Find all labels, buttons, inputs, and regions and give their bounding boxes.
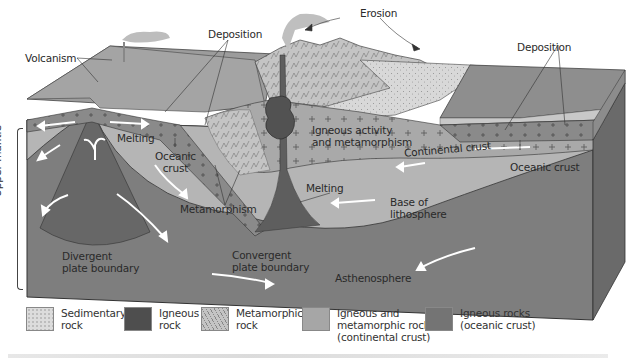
legend-text: Igneous rock	[159, 307, 199, 331]
label-volcanism: Volcanism	[25, 52, 76, 64]
label-upper-mantle: Upper mantle	[0, 125, 3, 197]
legend-line: metamorphic rock	[337, 319, 430, 331]
continental-crust-swatch	[302, 307, 330, 331]
sedimentary-swatch	[26, 307, 54, 331]
legend-item-metamorphic: Metamorphic rock	[201, 307, 303, 331]
label-erosion: Erosion	[360, 7, 397, 19]
legend-line: Metamorphic	[236, 307, 303, 319]
label-line: Base of	[390, 196, 447, 208]
label-oceanic-crust-left: Oceanic crust	[155, 150, 196, 174]
legend-text: Igneous and metamorphic rock (continenta…	[337, 307, 430, 343]
metamorphic-swatch	[201, 307, 229, 331]
label-melting-left: Melting	[117, 132, 154, 144]
label-oceanic-crust-right: Oceanic crust	[510, 161, 579, 173]
legend-line: Igneous	[159, 307, 199, 319]
label-line: and metamorphism	[312, 136, 412, 148]
legend-item-sedimentary: Sedimentary rock	[26, 307, 126, 331]
label-convergent-boundary: Convergent plate boundary	[232, 249, 309, 273]
caption-illegible	[8, 354, 608, 358]
smoke-left	[122, 32, 170, 43]
label-line: plate boundary	[232, 261, 309, 273]
label-line: plate boundary	[62, 262, 139, 274]
legend-line: Igneous and	[337, 307, 430, 319]
legend-text: Metamorphic rock	[236, 307, 303, 331]
legend-text: Igneous rocks (oceanic crust)	[460, 307, 535, 331]
legend-line: Sedimentary	[61, 307, 126, 319]
legend-item-igneous-metamorphic: Igneous and metamorphic rock (continenta…	[302, 307, 430, 343]
label-metamorphism: Metamorphism	[180, 203, 257, 215]
label-igneous-activity: Igneous activity and metamorphism	[312, 124, 412, 148]
legend-text: Sedimentary rock	[61, 307, 126, 331]
legend: Sedimentary rock Igneous rock Metamorphi…	[0, 307, 635, 347]
legend-line: (oceanic crust)	[460, 319, 535, 331]
label-base-of-lithosphere: Base of lithosphere	[390, 196, 447, 220]
label-divergent-boundary: Divergent plate boundary	[62, 250, 139, 274]
label-deposition-right: Deposition	[517, 41, 571, 53]
legend-line: rock	[236, 319, 303, 331]
legend-item-igneous: Igneous rock	[124, 307, 199, 331]
pluton	[265, 96, 294, 139]
label-line: Igneous activity	[312, 124, 412, 136]
label-line: Divergent	[62, 250, 139, 262]
legend-line: (continental crust)	[337, 331, 430, 343]
legend-line: rock	[159, 319, 199, 331]
label-line: Convergent	[232, 249, 309, 261]
label-line: Oceanic	[155, 150, 196, 162]
oceanic-crust-swatch	[425, 307, 453, 331]
igneous-swatch	[124, 307, 152, 331]
label-line: lithosphere	[390, 208, 447, 220]
label-deposition-left: Deposition	[208, 28, 262, 40]
label-line: crust	[155, 162, 196, 174]
label-melting-center: Melting	[306, 182, 343, 194]
legend-line: rock	[61, 319, 126, 331]
upper-mantle-bracket	[17, 128, 23, 290]
legend-line: Igneous rocks	[460, 307, 535, 319]
legend-item-igneous-oceanic: Igneous rocks (oceanic crust)	[425, 307, 535, 331]
label-asthenosphere: Asthenosphere	[335, 272, 411, 284]
